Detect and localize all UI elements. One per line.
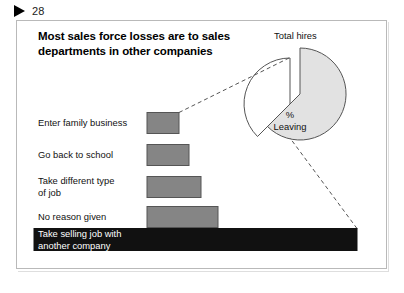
page-number: 28 [32, 6, 45, 17]
page-title: Most sales force losses are to sales dep… [38, 29, 253, 58]
slide-shadow-right [388, 22, 389, 271]
page-marker: 28 [14, 3, 45, 19]
bar-label-no-reason-given: No reason given [38, 211, 106, 223]
bar-label-go-back-to-school: Go back to school [38, 149, 113, 161]
bar-label-take-different-type-of-job: Take different type of job [38, 175, 114, 198]
pie-label-percent-leaving: % Leaving [262, 109, 318, 132]
pie-label-total-hires: Total hires [274, 30, 317, 41]
play-triangle-icon [14, 5, 25, 17]
bar-label-enter-family-business: Enter family business [38, 117, 127, 129]
bar-label-take-selling-job: Take selling job with another company [38, 228, 121, 251]
slide-shadow-bottom [18, 271, 389, 272]
